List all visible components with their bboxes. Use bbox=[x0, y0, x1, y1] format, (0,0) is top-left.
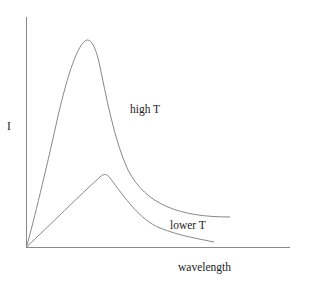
series-label-lower-t: lower T bbox=[170, 219, 206, 231]
series-label-high-t: high T bbox=[130, 103, 160, 116]
curve-high-t bbox=[27, 40, 231, 247]
x-axis-label-text: wavelength bbox=[178, 261, 231, 274]
y-axis-label: I bbox=[7, 120, 11, 132]
diagram-canvas: I wavelength high T lower T bbox=[0, 0, 309, 285]
curve-lower-t bbox=[27, 174, 215, 247]
blackbody-diagram: I wavelength high T lower T bbox=[0, 0, 309, 285]
